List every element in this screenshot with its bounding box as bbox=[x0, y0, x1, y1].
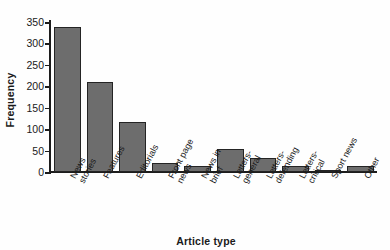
y-tick-label-100: 100 bbox=[14, 124, 44, 134]
y-tick-label-300: 300 bbox=[14, 38, 44, 48]
bar-slot bbox=[54, 22, 81, 172]
y-tick-label-0: 0 bbox=[14, 167, 44, 177]
y-tick-mark-250 bbox=[45, 65, 49, 67]
x-axis-title-text: Article type bbox=[154, 235, 236, 247]
y-axis-tick-labels: 050100150200250300350 bbox=[14, 0, 44, 250]
x-axis-title: Article type bbox=[0, 235, 390, 247]
y-axis-tick-marks bbox=[49, 22, 50, 172]
x-axis-category-labels: News storiesFeaturesEditorialsFront page… bbox=[51, 176, 377, 238]
bar bbox=[54, 27, 81, 172]
y-tick-mark-200 bbox=[45, 86, 49, 88]
y-tick-label-200: 200 bbox=[14, 81, 44, 91]
y-tick-label-50: 50 bbox=[14, 146, 44, 156]
y-tick-mark-350 bbox=[45, 22, 49, 24]
y-tick-mark-50 bbox=[45, 151, 49, 153]
y-tick-label-250: 250 bbox=[14, 60, 44, 70]
y-tick-label-150: 150 bbox=[14, 103, 44, 113]
y-tick-mark-300 bbox=[45, 43, 49, 45]
y-tick-mark-150 bbox=[45, 108, 49, 110]
y-tick-mark-0 bbox=[45, 172, 49, 174]
y-tick-label-350: 350 bbox=[14, 17, 44, 27]
y-tick-mark-100 bbox=[45, 129, 49, 131]
bar-chart: Frequency 050100150200250300350 News sto… bbox=[0, 0, 390, 250]
